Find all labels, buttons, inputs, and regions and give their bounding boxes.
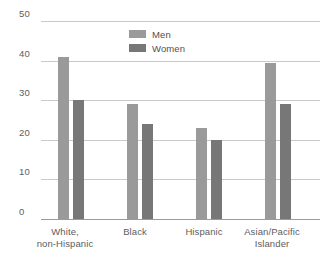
axis-baseline [41,219,320,220]
ytick-label-0: 0 [19,207,39,217]
bar-men-1 [127,104,138,219]
bars-layer [41,21,320,219]
ytick-label-30: 30 [19,88,39,98]
bar-women-0 [73,100,84,219]
bar-women-3 [280,104,291,219]
bar-men-0 [58,57,69,219]
xtick-label-0-line-1: non-Hispanic [17,238,113,250]
bar-women-1 [142,124,153,219]
bar-men-3 [265,63,276,219]
xtick-label-3-line-1: Islander [223,238,321,250]
xtick-label-3-line-0: Asian/Pacific [223,226,321,238]
xtick-label-3: Asian/Pacific Islander [223,226,321,249]
ytick-label-50: 50 [19,9,39,19]
ytick-label-10: 10 [19,167,39,177]
bar-chart: 50 40 30 20 10 0 Men Women [0,0,332,272]
bar-men-2 [196,128,207,219]
bar-women-2 [211,140,222,219]
ytick-label-20: 20 [19,128,39,138]
ytick-label-40: 40 [19,49,39,59]
